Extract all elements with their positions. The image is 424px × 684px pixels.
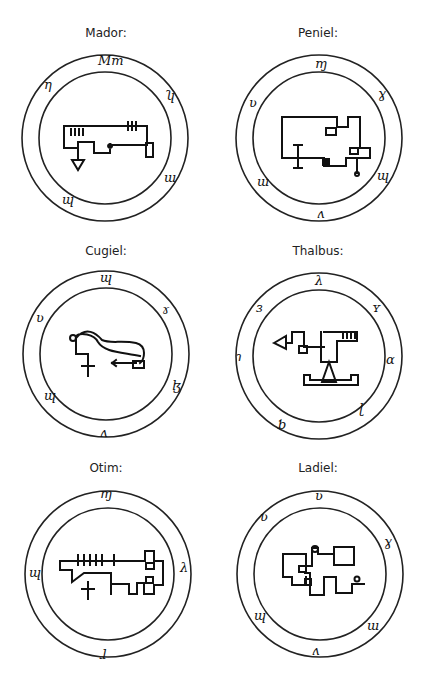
seal-peniel: Peniel: ɱ ɣ ʋ ɰ ʌ ɯ — [212, 0, 424, 230]
svg-text:ʋ: ʋ — [260, 509, 268, 524]
svg-text:ɰ: ɰ — [377, 168, 389, 183]
seal-cugiel: Cugiel: ɰ ʋ ɤ ɮ ɰ ʌ — [0, 230, 212, 455]
svg-text:ɯ: ɯ — [257, 174, 269, 189]
svg-text:ʏ: ʏ — [372, 300, 381, 315]
svg-text:ɰ: ɰ — [254, 608, 266, 623]
seal-ladiel: Ladiel: ʋ ʋ ɣ ɰ ɯ ʌ — [212, 455, 424, 684]
seal-otim-figure: ɱ ɰ λ ɺ — [0, 455, 212, 684]
svg-text:λ: λ — [314, 273, 323, 288]
svg-text:ɺ: ɺ — [99, 647, 107, 662]
seal-otim: Otim: ɱ ɰ λ ɺ — [0, 455, 212, 684]
svg-text:λ: λ — [179, 560, 188, 575]
seal-mador: Mador: Mm η ʮ ɯ ɰ — [0, 0, 212, 230]
svg-text:ʌ: ʌ — [312, 643, 320, 658]
svg-text:ɣ: ɣ — [384, 534, 392, 549]
seal-ladiel-figure: ʋ ʋ ɣ ɰ ɯ ʌ — [212, 455, 424, 684]
seal-thalbus: Thalbus: λ ɜ ʏ ɿ ɑ ɭ ƅ — [212, 230, 424, 455]
svg-text:ɜ: ɜ — [256, 300, 263, 315]
seal-cugiel-figure: ɰ ʋ ɤ ɮ ɰ ʌ — [0, 230, 212, 455]
svg-text:ɮ: ɮ — [172, 378, 181, 393]
svg-text:ʋ: ʋ — [249, 95, 257, 110]
svg-text:ʋ: ʋ — [315, 488, 323, 503]
svg-text:ɯ: ɯ — [367, 618, 379, 633]
svg-text:ɰ: ɰ — [44, 388, 56, 403]
svg-text:ɿ: ɿ — [236, 349, 242, 364]
svg-text:ɑ: ɑ — [386, 352, 395, 367]
svg-text:ʮ: ʮ — [165, 88, 175, 103]
svg-text:ʌ: ʌ — [317, 206, 325, 221]
svg-text:ʋ: ʋ — [36, 310, 44, 325]
svg-text:ɰ: ɰ — [62, 192, 74, 207]
svg-text:ɱ: ɱ — [315, 56, 327, 71]
svg-text:ɭ: ɭ — [359, 401, 364, 416]
seal-mador-figure: Mm η ʮ ɯ ɰ — [0, 0, 212, 230]
svg-text:η: η — [44, 77, 52, 92]
svg-text:ʌ: ʌ — [100, 425, 108, 440]
svg-text:ɤ: ɤ — [162, 302, 170, 317]
svg-text:ƅ: ƅ — [277, 417, 286, 432]
svg-text:ɱ: ɱ — [100, 486, 112, 501]
svg-text:Mm: Mm — [97, 53, 124, 68]
svg-text:ɯ: ɯ — [164, 170, 176, 185]
svg-text:ɣ: ɣ — [378, 86, 386, 101]
svg-text:ɰ: ɰ — [29, 565, 41, 580]
svg-text:ɰ: ɰ — [100, 270, 112, 285]
seal-peniel-figure: ɱ ɣ ʋ ɰ ʌ ɯ — [212, 0, 424, 230]
seal-thalbus-figure: λ ɜ ʏ ɿ ɑ ɭ ƅ — [212, 230, 424, 455]
